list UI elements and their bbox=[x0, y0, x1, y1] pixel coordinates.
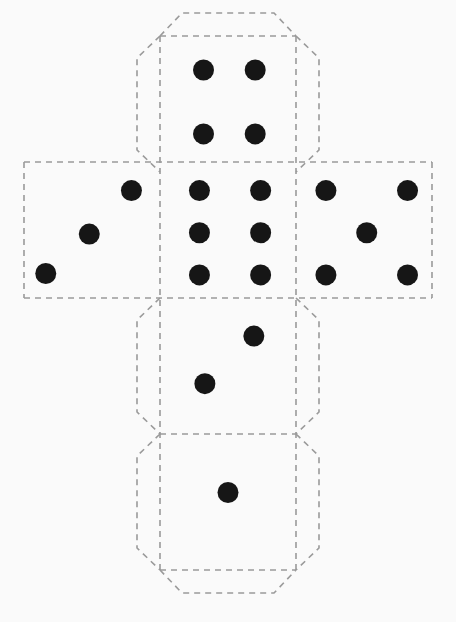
pip-group-bottom-face bbox=[218, 482, 239, 503]
pip-1-1 bbox=[218, 482, 239, 503]
pip-2-2 bbox=[243, 326, 264, 347]
pip-4-4 bbox=[245, 123, 266, 144]
center-face bbox=[160, 162, 296, 298]
pip-5-3 bbox=[356, 222, 377, 243]
pip-5-2 bbox=[397, 180, 418, 201]
pip-6-1 bbox=[189, 180, 210, 201]
cube-net-figure bbox=[0, 0, 456, 622]
pip-5-1 bbox=[315, 180, 336, 201]
pip-4-3 bbox=[193, 123, 214, 144]
pip-2-1 bbox=[194, 373, 215, 394]
pip-3-3 bbox=[121, 180, 142, 201]
pip-6-5 bbox=[189, 264, 210, 285]
pip-6-2 bbox=[250, 180, 271, 201]
pip-5-4 bbox=[315, 264, 336, 285]
pip-6-6 bbox=[250, 264, 271, 285]
pip-5-5 bbox=[397, 264, 418, 285]
pip-3-1 bbox=[35, 263, 56, 284]
pip-3-2 bbox=[79, 224, 100, 245]
top-face bbox=[160, 36, 296, 172]
pip-4-1 bbox=[193, 60, 214, 81]
pip-4-2 bbox=[245, 60, 266, 81]
pip-6-3 bbox=[189, 222, 210, 243]
pip-6-4 bbox=[250, 222, 271, 243]
lower-face bbox=[160, 298, 296, 434]
